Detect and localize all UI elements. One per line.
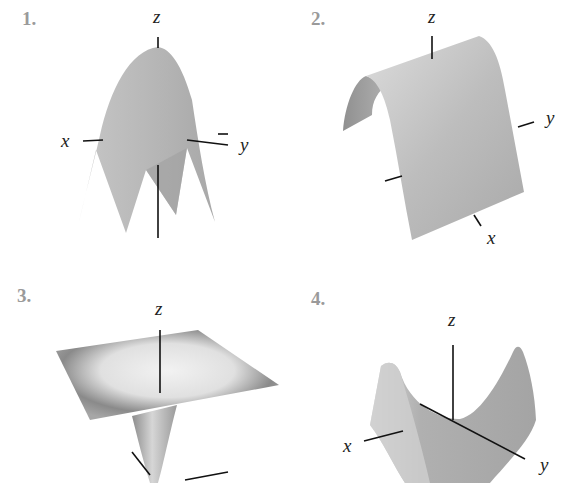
figure-1-y-label: y [240, 135, 248, 154]
figure-4-number: 4. [311, 288, 325, 310]
figure-2-y-label: y [546, 108, 554, 127]
figure-1-x-label: x [61, 131, 69, 150]
figure-1-number: 1. [22, 8, 36, 30]
figure-2-z-label: z [428, 7, 435, 26]
figure-1-z-label: z [153, 7, 160, 26]
figure-4-x-label: x [343, 436, 351, 455]
figure-2-x-label: x [487, 228, 495, 247]
figure-3-surface [56, 330, 279, 483]
figure-4-y-label: y [540, 455, 548, 474]
figure-3-number: 3. [17, 285, 31, 307]
x-axis-tick [83, 140, 103, 141]
figure-3-z-label: z [155, 299, 162, 318]
figure-2-surface [343, 36, 524, 240]
y-axis-line [185, 472, 228, 480]
figure-canvas [0, 0, 569, 483]
neg-y-axis-tick [385, 176, 402, 181]
figure-4-z-label: z [448, 310, 455, 329]
figure-2-number: 2. [311, 8, 325, 30]
x-axis-tick [474, 215, 481, 226]
y-axis-tick [518, 122, 534, 127]
